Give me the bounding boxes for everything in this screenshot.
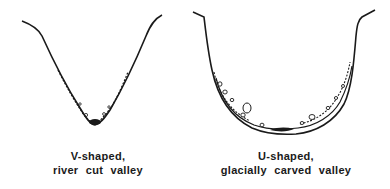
u-valley-boulder: [218, 82, 222, 86]
u-valley-boulder: [230, 98, 234, 101]
u-valley-profile: [193, 10, 375, 134]
u-valley-caption: U-shaped, glacially carved valley: [206, 149, 366, 177]
u-valley-boulder: [300, 122, 304, 125]
u-valley-boulder: [334, 97, 337, 100]
u-valley-boulder: [309, 115, 315, 120]
v-valley-profile: [22, 15, 162, 125]
v-valley-caption: V-shaped, river cut valley: [40, 149, 156, 177]
v-valley-caption-line1: V-shaped,: [40, 149, 156, 163]
v-valley-river-deposit: [89, 119, 101, 125]
v-valley-pebble: [79, 103, 81, 105]
v-valley-outline: [22, 15, 162, 125]
u-valley-boulder: [243, 103, 251, 113]
u-valley-caption-line2: glacially carved valley: [206, 163, 366, 177]
u-valley-boulder: [223, 90, 227, 94]
u-valley-caption-line1: U-shaped,: [206, 149, 366, 163]
u-valley-boulder: [260, 123, 264, 127]
v-valley-pebble: [103, 113, 106, 116]
u-valley-boulder: [326, 106, 330, 109]
v-valley-caption-line2: river cut valley: [40, 163, 156, 177]
v-valley-pebble: [108, 106, 110, 108]
u-valley-boulder: [342, 85, 345, 88]
u-valley-boulder: [241, 113, 245, 117]
